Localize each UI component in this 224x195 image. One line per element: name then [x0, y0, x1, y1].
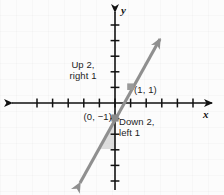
- x-axis-label: x: [203, 108, 209, 120]
- annotation-down-left: Down 2, left 1: [119, 116, 155, 138]
- annotation-up-right: Up 2, right 1: [46, 59, 120, 81]
- coordinate-plane-plot: [0, 0, 224, 195]
- figure-canvas: Up 2, right 1 Down 2, left 1 (1, 1) (0, …: [0, 0, 224, 195]
- y-axis-label: y: [121, 4, 126, 16]
- y-axis: [111, 12, 120, 190]
- point-marker-0-neg1: [111, 114, 118, 121]
- point-marker-1-1: [127, 83, 134, 90]
- point-label-0-neg1: (0, −1): [62, 111, 112, 122]
- point-label-1-1: (1, 1): [134, 84, 157, 95]
- x-axis: [12, 99, 212, 108]
